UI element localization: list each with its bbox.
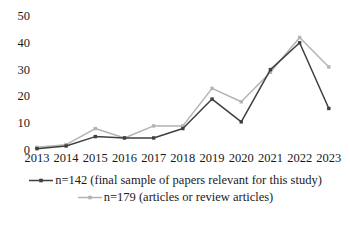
- y-tick-label: 10: [0, 117, 30, 130]
- y-tick-label: 50: [0, 10, 30, 23]
- legend-swatch-icon: [77, 192, 103, 203]
- x-tick-label: 2021: [258, 152, 283, 166]
- x-tick-label: 2020: [229, 152, 254, 166]
- legend-item[interactable]: n=142 (final sample of papers relevant f…: [0, 172, 350, 189]
- chart-legend: n=142 (final sample of papers relevant f…: [0, 172, 350, 206]
- x-tick-label: 2022: [287, 152, 312, 166]
- plot-svg: [34, 16, 344, 150]
- data-point-marker: [64, 144, 67, 147]
- data-point-marker: [181, 127, 184, 130]
- y-axis: 01020304050: [0, 16, 30, 150]
- x-tick-label: 2015: [83, 152, 108, 166]
- data-point-marker: [327, 107, 330, 110]
- x-tick-label: 2014: [54, 152, 79, 166]
- legend-label: n=179 (articles or review articles): [104, 191, 273, 204]
- data-point-marker: [123, 136, 126, 139]
- data-point-marker: [35, 147, 38, 150]
- data-point-marker: [240, 100, 243, 103]
- series-line: [37, 37, 329, 147]
- line-chart: 01020304050 2013201420152016201720182019…: [0, 0, 350, 227]
- y-tick-label: 40: [0, 37, 30, 50]
- series-line: [37, 43, 329, 149]
- data-point-marker: [94, 135, 97, 138]
- x-tick-label: 2016: [112, 152, 137, 166]
- data-point-marker: [94, 127, 97, 130]
- series-1: [35, 41, 330, 150]
- data-point-marker: [152, 136, 155, 139]
- data-point-marker: [240, 120, 243, 123]
- x-tick-label: 2019: [200, 152, 225, 166]
- data-point-marker: [298, 41, 301, 44]
- data-point-marker: [210, 97, 213, 100]
- y-tick-label: 20: [0, 90, 30, 103]
- legend-swatch-icon: [28, 175, 54, 186]
- legend-item[interactable]: n=179 (articles or review articles): [0, 189, 350, 206]
- x-tick-label: 2023: [316, 152, 341, 166]
- x-tick-label: 2017: [141, 152, 166, 166]
- x-tick-label: 2013: [24, 152, 49, 166]
- data-point-marker: [210, 87, 213, 90]
- data-point-marker: [269, 68, 272, 71]
- data-point-marker: [152, 124, 155, 127]
- x-tick-label: 2018: [170, 152, 195, 166]
- series-2: [35, 36, 330, 149]
- legend-label: n=142 (final sample of papers relevant f…: [55, 174, 322, 187]
- x-axis: 2013201420152016201720182019202020212022…: [34, 152, 344, 168]
- data-point-marker: [327, 65, 330, 68]
- data-point-marker: [298, 36, 301, 39]
- plot-area: [34, 16, 344, 150]
- y-tick-label: 30: [0, 63, 30, 76]
